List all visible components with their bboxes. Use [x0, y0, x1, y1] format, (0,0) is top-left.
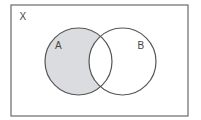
- set-b-label: B: [138, 40, 145, 51]
- set-a-label: A: [55, 40, 62, 51]
- universe-label: X: [20, 11, 27, 22]
- venn-diagram: X A B: [0, 0, 201, 120]
